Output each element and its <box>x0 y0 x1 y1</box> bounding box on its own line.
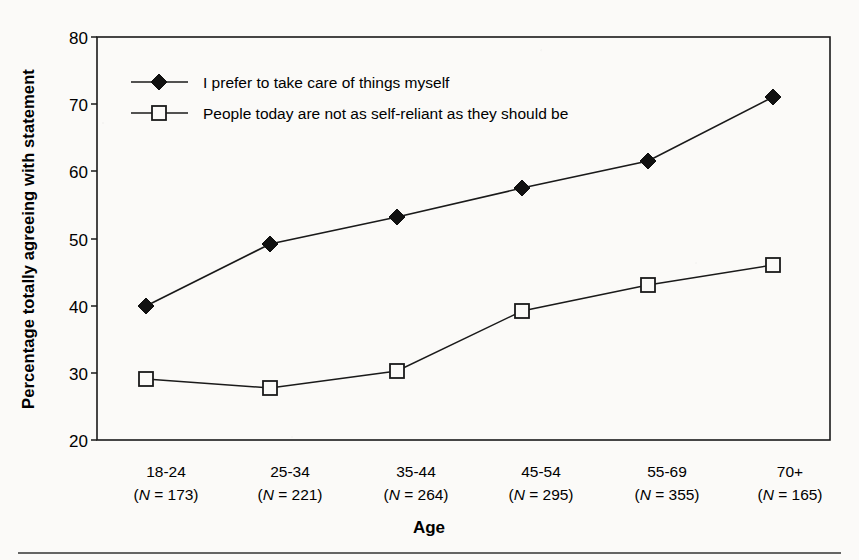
data-point-marker <box>263 381 277 395</box>
data-point-marker <box>139 372 153 386</box>
filled-diamond-icon <box>151 74 167 90</box>
x-tick-sublabel-2: (N = 264) <box>383 486 448 503</box>
x-tick-label-1: 25-34 <box>270 463 310 480</box>
x-tick-sublabel-3: (N = 295) <box>508 486 573 503</box>
y-tick-label-80: 80 <box>69 29 88 48</box>
x-tick-sublabel-4: (N = 355) <box>634 486 699 503</box>
y-tick-label-40: 40 <box>69 298 88 317</box>
data-point-marker <box>514 180 530 196</box>
series-prefer-take-care-of-things-myself <box>138 89 781 314</box>
y-tick-label-50: 50 <box>69 231 88 250</box>
y-tick-label-70: 70 <box>69 96 88 115</box>
x-tick-label-0: 18-24 <box>146 463 186 480</box>
y-tick-label-30: 30 <box>69 365 88 384</box>
legend-item-0: I prefer to take care of things myself <box>131 74 450 91</box>
data-point-marker <box>515 304 529 318</box>
data-point-marker <box>640 153 656 169</box>
series-people-today-not-self-reliant <box>139 258 780 395</box>
legend-label-1: People today are not as self-reliant as … <box>203 105 568 122</box>
data-point-marker <box>389 209 405 225</box>
data-point-marker <box>641 278 655 292</box>
y-axis-ticks <box>91 37 97 440</box>
x-axis-title: Age <box>413 518 445 537</box>
open-square-icon <box>152 106 166 120</box>
x-axis-labels: 18-24 (N = 173) 25-34 (N = 221) 35-44 (N… <box>133 463 822 503</box>
data-point-marker <box>262 236 278 252</box>
line-chart: Percentage totally agreeing with stateme… <box>0 0 859 560</box>
y-tick-label-20: 20 <box>69 432 88 451</box>
chart-figure: Percentage totally agreeing with stateme… <box>0 0 859 560</box>
y-axis-title: Percentage totally agreeing with stateme… <box>19 69 37 409</box>
legend-item-1: People today are not as self-reliant as … <box>131 105 568 122</box>
data-point-marker <box>138 298 154 314</box>
plot-frame <box>97 37 830 440</box>
x-tick-label-2: 35-44 <box>396 463 436 480</box>
data-point-marker <box>765 89 781 105</box>
chart-legend: I prefer to take care of things myself P… <box>131 74 568 122</box>
data-point-marker <box>390 364 404 378</box>
x-tick-label-4: 55-69 <box>647 463 687 480</box>
x-tick-label-5: 70+ <box>777 463 803 480</box>
data-point-marker <box>766 258 780 272</box>
x-tick-sublabel-0: (N = 173) <box>133 486 198 503</box>
x-tick-sublabel-5: (N = 165) <box>757 486 822 503</box>
y-tick-label-60: 60 <box>69 163 88 182</box>
x-tick-label-3: 45-54 <box>521 463 561 480</box>
legend-label-0: I prefer to take care of things myself <box>203 74 450 91</box>
x-tick-sublabel-1: (N = 221) <box>257 486 322 503</box>
